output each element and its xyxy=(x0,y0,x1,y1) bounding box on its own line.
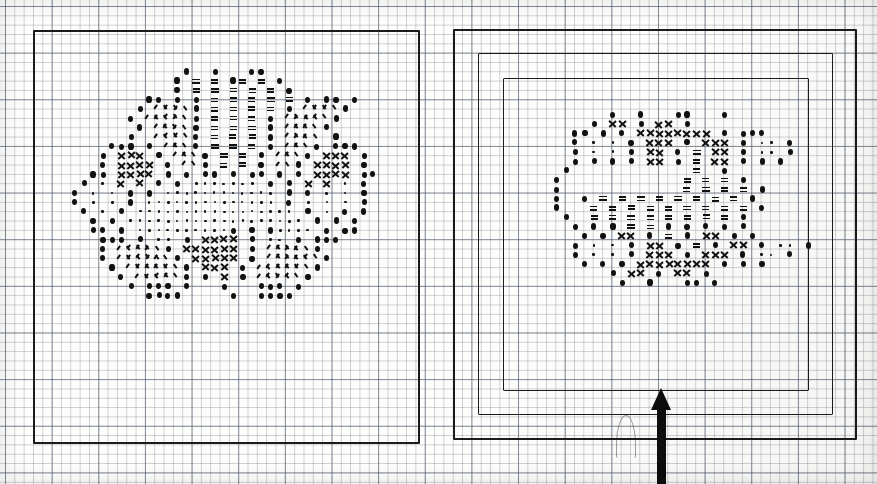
cross-stitch xyxy=(191,245,200,254)
small-dot-stitch xyxy=(107,188,116,197)
filled-dot-stitch xyxy=(303,207,312,216)
small-dot-stitch xyxy=(210,216,219,225)
cross-stitch xyxy=(645,259,654,268)
caret-stitch xyxy=(266,244,275,253)
small-dot-stitch xyxy=(200,207,209,216)
small-dot-stitch xyxy=(210,207,219,216)
filled-dot-stitch xyxy=(580,232,589,241)
small-dot-stitch xyxy=(200,226,209,235)
small-dot-stitch xyxy=(182,198,191,207)
filled-dot-stitch xyxy=(786,147,795,156)
filled-dot-stitch xyxy=(266,123,275,132)
filled-dot-stitch xyxy=(303,95,312,104)
filled-dot-stitch xyxy=(182,263,191,272)
filled-dot-stitch xyxy=(144,291,153,300)
double-bar-stitch xyxy=(682,203,691,212)
caret-stitch xyxy=(266,263,275,272)
double-bar-stitch xyxy=(210,95,219,104)
filled-dot-stitch xyxy=(627,147,636,156)
filled-dot-stitch xyxy=(683,278,692,287)
filled-dot-stitch xyxy=(191,141,200,150)
small-dot-stitch xyxy=(608,250,617,259)
filled-dot-stitch xyxy=(294,282,303,291)
small-dot-stitch xyxy=(767,138,776,147)
cross-stitch xyxy=(210,254,219,263)
caret-stitch xyxy=(164,272,173,281)
filled-dot-stitch xyxy=(136,235,145,244)
cross-stitch xyxy=(702,231,711,240)
filled-dot-stitch xyxy=(739,147,748,156)
small-dot-stitch xyxy=(608,138,617,147)
filled-dot-stitch xyxy=(552,203,561,212)
double-bar-stitch xyxy=(598,193,607,202)
filled-dot-stitch xyxy=(247,235,256,244)
cross-stitch xyxy=(655,241,664,250)
cross-stitch xyxy=(201,263,210,272)
filled-dot-stitch xyxy=(144,95,153,104)
filled-dot-stitch xyxy=(256,160,265,169)
filled-dot-stitch xyxy=(265,291,274,300)
cross-stitch xyxy=(645,138,654,147)
filled-dot-stitch xyxy=(322,235,331,244)
arrow-head-icon xyxy=(651,388,671,410)
filled-dot-stitch xyxy=(748,232,757,241)
cross-stitch xyxy=(701,259,710,268)
filled-dot-stitch xyxy=(570,241,579,250)
filled-dot-stitch xyxy=(598,129,607,138)
filled-dot-stitch xyxy=(617,128,626,137)
cross-stitch xyxy=(220,263,229,272)
filled-dot-stitch xyxy=(683,250,692,259)
small-dot-stitch xyxy=(191,216,200,225)
cross-stitch xyxy=(673,128,682,137)
double-bar-stitch xyxy=(238,160,247,169)
filled-dot-stitch xyxy=(247,254,256,263)
filled-dot-stitch xyxy=(163,160,172,169)
filled-dot-stitch xyxy=(247,225,256,234)
double-bar-stitch xyxy=(692,166,701,175)
filled-dot-stitch xyxy=(192,114,201,123)
filled-dot-stitch xyxy=(294,235,303,244)
small-dot-stitch xyxy=(285,217,294,226)
caret-stitch xyxy=(294,245,303,254)
small-dot-stitch xyxy=(228,188,237,197)
double-bar-stitch xyxy=(238,77,247,86)
filled-dot-stitch xyxy=(332,114,341,123)
cross-stitch xyxy=(664,119,673,128)
filled-dot-stitch xyxy=(107,263,116,272)
small-dot-stitch xyxy=(266,216,275,225)
filled-dot-stitch xyxy=(673,241,682,250)
small-dot-stitch xyxy=(135,225,144,234)
small-dot-stitch xyxy=(182,226,191,235)
filled-dot-stitch xyxy=(303,151,312,160)
cross-stitch xyxy=(664,250,673,259)
small-dot-stitch xyxy=(200,188,209,197)
small-dot-stitch xyxy=(136,206,145,215)
cross-stitch xyxy=(220,254,229,263)
small-dot-stitch xyxy=(219,226,228,235)
small-dot-stitch xyxy=(154,216,163,225)
filled-dot-stitch xyxy=(153,179,162,188)
caret-stitch xyxy=(303,123,312,132)
cross-stitch xyxy=(719,250,728,259)
filled-dot-stitch xyxy=(701,222,710,231)
filled-dot-stitch xyxy=(720,166,729,175)
filled-dot-stitch xyxy=(154,150,163,159)
filled-dot-stitch xyxy=(739,138,748,147)
filled-dot-stitch xyxy=(571,222,580,231)
filled-dot-stitch xyxy=(257,169,266,178)
cross-stitch xyxy=(191,254,200,263)
caret-stitch xyxy=(116,254,125,263)
small-dot-stitch xyxy=(257,198,266,207)
small-dot-stitch xyxy=(98,207,107,216)
double-bar-stitch xyxy=(237,151,246,160)
caret-stitch xyxy=(173,132,182,141)
small-dot-stitch xyxy=(247,188,256,197)
double-bar-stitch xyxy=(210,132,219,141)
filled-dot-stitch xyxy=(163,170,172,179)
small-dot-stitch xyxy=(145,226,154,235)
filled-dot-stitch xyxy=(265,282,274,291)
small-dot-stitch xyxy=(108,198,117,207)
small-dot-stitch xyxy=(767,148,776,157)
double-bar-stitch xyxy=(645,204,654,213)
double-bar-stitch xyxy=(692,241,701,250)
